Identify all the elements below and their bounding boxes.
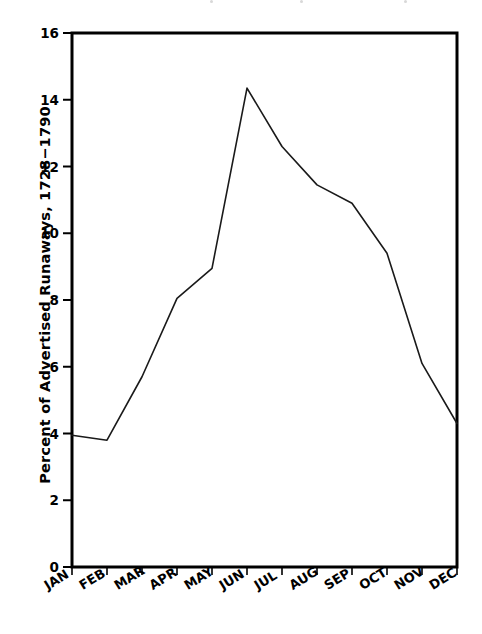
plot-frame [72, 33, 457, 567]
y-axis-tick-label: 6 [29, 360, 59, 374]
y-axis-tick-label: 16 [29, 26, 59, 40]
y-axis-tick-label: 14 [29, 93, 59, 107]
y-axis-tick-label: 10 [29, 226, 59, 240]
y-axis-tick-label: 12 [29, 160, 59, 174]
y-axis-tick-label: 8 [29, 293, 59, 307]
line-chart-plot [0, 0, 482, 634]
chart-figure: Percent of Advertised Runaways, 1728−179… [0, 0, 482, 634]
y-axis-tick-label: 2 [29, 493, 59, 507]
y-axis-tick-label: 4 [29, 427, 59, 441]
